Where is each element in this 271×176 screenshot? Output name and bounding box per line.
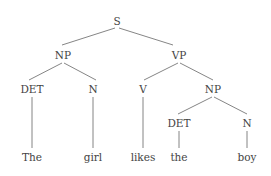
tree-leaves: The girl likes the boy [22, 151, 257, 163]
node-v: V [138, 83, 147, 95]
node-np-subject: NP [55, 49, 71, 61]
word-likes: likes [131, 151, 156, 163]
node-vp: VP [171, 49, 187, 61]
node-n-subject: N [88, 83, 97, 95]
word-the-capital: The [22, 151, 42, 163]
edge-np2-n [214, 97, 247, 114]
edge-s-vp [119, 28, 173, 45]
tree-nodes: S NP VP DET N V NP DET N [20, 15, 251, 129]
edge-vp-np [180, 63, 213, 80]
word-girl: girl [84, 151, 103, 163]
syntax-tree: S NP VP DET N V NP DET N The girl likes … [0, 0, 271, 176]
node-det-subject: DET [20, 83, 43, 95]
node-np-object: NP [205, 83, 221, 95]
node-s: S [113, 15, 120, 27]
node-det-object: DET [167, 117, 190, 129]
edge-vp-v [144, 63, 178, 80]
word-boy: boy [238, 151, 257, 163]
edge-np2-det [178, 97, 212, 114]
edge-np-det [29, 63, 62, 80]
edge-np-n [64, 63, 96, 80]
word-the: the [170, 151, 187, 163]
edge-s-np [62, 28, 115, 45]
node-n-object: N [242, 117, 251, 129]
